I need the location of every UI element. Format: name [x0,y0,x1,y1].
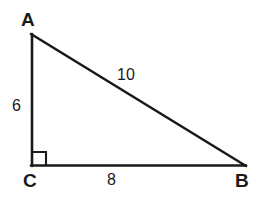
side-length-label-ab: 10 [117,67,135,83]
side-ab-line [31,34,246,166]
side-length-label-ac: 6 [12,98,21,114]
vertex-label-a: A [21,10,35,29]
vertex-label-c: C [23,171,37,190]
triangle-drawing [0,0,262,203]
right-angle-marker-icon [33,152,46,165]
geometry-figure: A C B 6 8 10 [0,0,262,203]
side-length-label-cb: 8 [107,172,116,188]
vertex-label-b: B [235,171,249,190]
